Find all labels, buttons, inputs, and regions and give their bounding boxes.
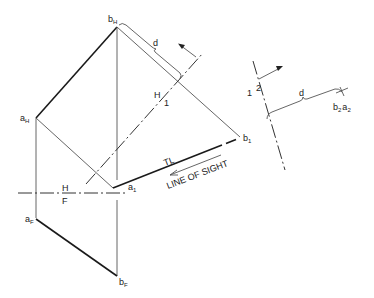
label-fold-12-right: 2 [256,83,261,93]
label-b-h: bH [108,14,117,25]
label-true-length: TL [162,155,175,168]
distance-bracket-top [119,24,181,80]
line-ab-front-view [36,219,117,276]
line-ab-horizontal-view [36,27,117,118]
view-2-direction-arrowhead-icon [276,66,283,71]
label-fold-hf-bottom: F [62,196,68,206]
projector-b-to-aux1 [117,27,240,137]
label-a-h: aH [20,113,29,124]
projector-a-to-aux1 [36,118,113,188]
label-b-f: bF [119,277,128,288]
label-fold-hf-top: H [62,183,69,193]
label-fold-h1-bottom: 1 [164,98,169,108]
label-a-f: aF [25,214,34,225]
label-b-1: b1 [243,133,252,144]
label-fold-h1-top: H [154,90,161,100]
label-distance-right: d [299,88,304,98]
label-fold-12-left: 1 [247,88,252,98]
drawing-svg: bH aH a1 b1 aF bF H F H 1 d d 1 2 b2a2 T… [0,0,374,298]
fold-line-1-2 [253,61,285,170]
label-b2a2: b2a2 [333,102,351,113]
label-distance-top: d [153,38,158,48]
view-2-direction-arrow-shaft [259,68,280,79]
descriptive-geometry-drawing: bH aH a1 b1 aF bF H F H 1 d d 1 2 b2a2 T… [0,0,374,298]
label-a-1: a1 [128,182,137,193]
fold-line-h-1 [86,53,203,184]
distance-bracket-right [267,89,342,119]
line-ab-true-length-tail [226,140,236,144]
